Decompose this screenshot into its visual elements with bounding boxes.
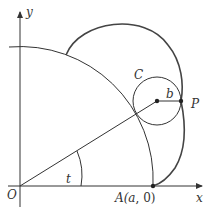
- x-axis-label: x: [196, 191, 203, 205]
- point-p: [179, 99, 183, 103]
- point-a-label: A(a, 0): [114, 191, 155, 205]
- circle-c-label: C: [134, 68, 143, 82]
- origin-label: O: [7, 188, 17, 202]
- point-p-label: P: [190, 97, 200, 111]
- diagram-canvas: y x O t C b P A(a, 0): [0, 0, 213, 214]
- point-a: [151, 184, 155, 188]
- y-axis-label: y: [25, 5, 33, 19]
- radius-b-label: b: [166, 87, 174, 101]
- angle-label: t: [66, 172, 71, 186]
- traced-curve: [66, 24, 184, 186]
- ray-o-to-center: [20, 101, 157, 186]
- angle-arc-t: [77, 151, 82, 186]
- center-point: [155, 99, 159, 103]
